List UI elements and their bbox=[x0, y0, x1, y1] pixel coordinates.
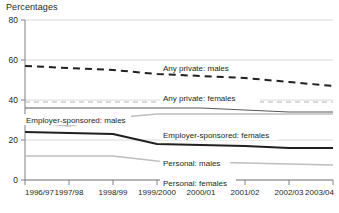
annotation-personal-females: Personal: females bbox=[163, 179, 227, 188]
x-tick-1996-97: 1996/97 bbox=[25, 188, 54, 197]
x-tick-1997-98: 1997/98 bbox=[55, 188, 84, 197]
series-line-employer-sponsored-males bbox=[25, 108, 333, 112]
x-tick-labels: 1996/97 1997/98 1998/99 1999/2000 2000/0… bbox=[25, 188, 335, 197]
x-tick-2003-04: 2003/04 bbox=[305, 188, 334, 197]
annotation-any-private-females: Any private: females bbox=[163, 94, 235, 103]
y-tick-labels: 80 60 40 20 0 bbox=[9, 15, 19, 185]
annotation-employer-sponsored-males: Employer-sponsored: males bbox=[26, 116, 126, 125]
x-tick-1998-99: 1998/99 bbox=[99, 188, 128, 197]
y-tick-40: 40 bbox=[9, 95, 19, 105]
annotation-personal-males: Personal: males bbox=[163, 159, 220, 168]
x-tick-2002-03: 2002/03 bbox=[275, 188, 304, 197]
chart-container: Percentages bbox=[0, 0, 339, 213]
y-tick-marks bbox=[21, 20, 25, 180]
annotation-employer-sponsored-females: Employer-sponsored: females bbox=[163, 131, 269, 140]
y-tick-80: 80 bbox=[9, 15, 19, 25]
x-tick-2000-01: 2000/01 bbox=[187, 188, 216, 197]
x-tick-2001-02: 2001/02 bbox=[231, 188, 260, 197]
x-tick-1999-2000: 1999/2000 bbox=[138, 188, 176, 197]
chart-plot-area: 80 60 40 20 0 1996/97 1997/98 1998/99 19… bbox=[0, 0, 339, 213]
y-tick-20: 20 bbox=[9, 135, 19, 145]
series-annotations: Any private: males Any private: females … bbox=[23, 62, 278, 188]
y-tick-60: 60 bbox=[9, 55, 19, 65]
y-tick-0: 0 bbox=[13, 175, 18, 185]
annotation-any-private-males: Any private: males bbox=[163, 64, 229, 73]
